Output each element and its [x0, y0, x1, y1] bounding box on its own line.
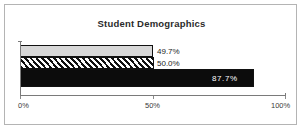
value-axis-end-cap — [18, 41, 22, 42]
bar-series-2[interactable] — [21, 57, 154, 69]
chart-frame: Student Demographics 0% 50% 100% 49.7% 5… — [4, 4, 297, 125]
chart-title: Student Demographics — [5, 18, 298, 29]
plot-area: 0% 50% 100% 49.7% 50.0% 87.7% — [20, 41, 286, 95]
bar-data-label: 87.7% — [212, 75, 238, 83]
bar-row: 49.7% — [21, 45, 286, 57]
axis-tick-0 — [20, 96, 21, 99]
axis-tick-label-0: 0% — [18, 101, 29, 110]
bar-row: 50.0% — [21, 57, 286, 69]
bar-data-label: 50.0% — [157, 60, 180, 68]
axis-tick-50 — [153, 96, 154, 99]
axis-tick-100 — [285, 96, 286, 99]
bar-series-1[interactable] — [21, 45, 153, 57]
axis-tick-label-50: 50% — [145, 101, 160, 110]
axis-tick-label-100: 100% — [271, 101, 290, 110]
bar-data-label: 49.7% — [157, 48, 180, 56]
bar-row: 87.7% — [21, 69, 286, 87]
